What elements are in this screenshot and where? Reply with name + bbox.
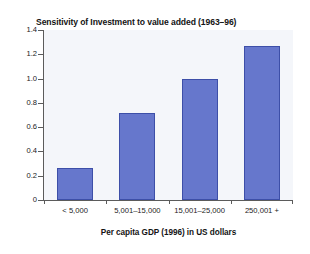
y-axis-tick-label: 0.4 [26, 146, 37, 155]
x-axis-tick-mark [106, 200, 107, 204]
y-axis-tick-mark [38, 176, 43, 177]
y-axis-tick-mark [38, 200, 43, 201]
y-axis-tick-label: 0.8 [26, 98, 37, 107]
x-axis-title: Per capita GDP (1996) in US dollars [44, 228, 293, 237]
chart-title: Sensitivity of Investment to value added… [36, 17, 236, 27]
bar [57, 168, 93, 200]
y-axis-tick-mark [38, 103, 43, 104]
bar [182, 79, 218, 200]
x-axis-category-label: 5,001–15,000 [106, 206, 168, 215]
x-axis-category-label: 15,001–25,000 [169, 206, 231, 215]
bar [119, 113, 155, 200]
y-axis-tick-mark [38, 127, 43, 128]
x-axis-tick-mark [292, 200, 293, 204]
y-axis-tick-label: 1.4 [26, 25, 37, 34]
y-axis-tick-mark [38, 151, 43, 152]
y-axis-tick-label: 0.6 [26, 122, 37, 131]
y-axis-tick-label: 0.2 [26, 171, 37, 180]
x-axis-tick-mark [231, 200, 232, 204]
y-axis-tick-label: 0 [33, 195, 37, 204]
y-axis-tick-mark [38, 30, 43, 31]
bars-layer [44, 30, 293, 200]
y-axis-tick-mark [38, 79, 43, 80]
x-axis-category-label: 250,001 + [231, 206, 293, 215]
y-axis-tick-label: 1.0 [26, 74, 37, 83]
x-axis-tick-mark [169, 200, 170, 204]
x-axis-category-label: < 5,000 [44, 206, 106, 215]
bar [244, 46, 280, 200]
bar-chart-figure: Sensitivity of Investment to value added… [0, 0, 310, 254]
x-axis-tick-mark [44, 200, 45, 204]
y-axis-tick-mark [38, 54, 43, 55]
y-axis-tick-label: 1.2 [26, 49, 37, 58]
